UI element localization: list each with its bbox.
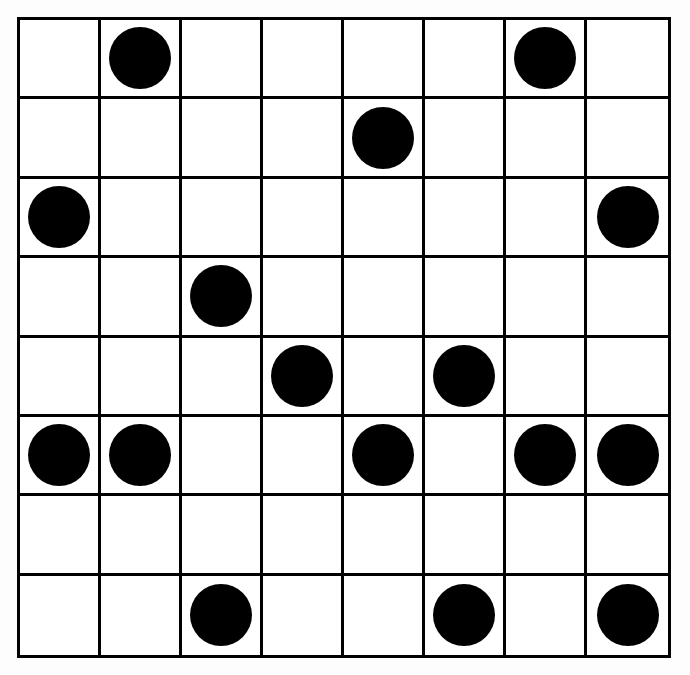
grid-cell[interactable] [506,258,587,337]
grid-cell[interactable] [101,338,182,417]
grid-cell[interactable] [587,20,668,99]
grid-cell[interactable] [20,179,101,258]
grid-cell[interactable] [425,496,506,575]
grid-cell[interactable] [344,20,425,99]
grid-cell[interactable] [506,496,587,575]
filled-circle-icon [433,345,495,407]
filled-circle-icon [352,107,414,169]
grid-cell[interactable] [587,179,668,258]
grid-cell[interactable] [506,99,587,178]
filled-circle-icon [433,584,495,646]
grid-cell[interactable] [344,338,425,417]
grid-cell[interactable] [506,20,587,99]
grid-cell[interactable] [101,258,182,337]
grid-cell[interactable] [587,576,668,655]
grid-cell[interactable] [425,179,506,258]
grid-cell[interactable] [506,179,587,258]
grid-cell[interactable] [20,417,101,496]
grid-cell[interactable] [182,258,263,337]
grid-cell[interactable] [101,576,182,655]
grid-cell[interactable] [101,417,182,496]
grid-cell[interactable] [263,417,344,496]
filled-circle-icon [514,424,576,486]
filled-circle-icon [28,424,90,486]
filled-circle-icon [190,584,252,646]
filled-circle-icon [352,424,414,486]
grid-cell[interactable] [182,496,263,575]
grid-cell[interactable] [263,179,344,258]
filled-circle-icon [597,186,659,248]
filled-circle-icon [28,186,90,248]
grid-cell[interactable] [587,338,668,417]
grid-cell[interactable] [263,338,344,417]
filled-circle-icon [190,265,252,327]
grid-cell[interactable] [20,496,101,575]
grid-cell[interactable] [506,576,587,655]
grid-cell[interactable] [587,417,668,496]
grid-cell[interactable] [101,20,182,99]
grid-cell[interactable] [182,576,263,655]
grid-cell[interactable] [506,417,587,496]
grid-cell[interactable] [344,496,425,575]
grid-cell[interactable] [344,179,425,258]
grid-cell[interactable] [101,496,182,575]
grid-cell[interactable] [506,338,587,417]
grid-cell[interactable] [344,258,425,337]
grid-cell[interactable] [101,99,182,178]
grid-cell[interactable] [587,496,668,575]
grid-cell[interactable] [20,99,101,178]
grid-cell[interactable] [263,496,344,575]
filled-circle-icon [271,345,333,407]
grid-cell[interactable] [182,338,263,417]
grid-cell[interactable] [425,99,506,178]
grid-cell[interactable] [182,179,263,258]
grid-cell[interactable] [182,417,263,496]
dot-grid [17,17,671,658]
grid-cell[interactable] [425,417,506,496]
grid-cell[interactable] [20,576,101,655]
grid-cell[interactable] [344,576,425,655]
grid-cell[interactable] [587,99,668,178]
grid-cell[interactable] [20,20,101,99]
grid-cell[interactable] [425,258,506,337]
grid-cell[interactable] [425,576,506,655]
filled-circle-icon [597,584,659,646]
filled-circle-icon [597,424,659,486]
figure-canvas [0,0,690,675]
grid-cell[interactable] [344,99,425,178]
filled-circle-icon [109,424,171,486]
grid-cell[interactable] [263,20,344,99]
filled-circle-icon [514,27,576,89]
grid-cell[interactable] [344,417,425,496]
grid-cell[interactable] [263,99,344,178]
grid-cell[interactable] [20,338,101,417]
grid-cell[interactable] [20,258,101,337]
filled-circle-icon [109,27,171,89]
grid-cell[interactable] [263,576,344,655]
grid-cell[interactable] [587,258,668,337]
grid-cell[interactable] [182,20,263,99]
grid-cell[interactable] [425,338,506,417]
grid-cell[interactable] [425,20,506,99]
grid-cell[interactable] [263,258,344,337]
grid-cell[interactable] [182,99,263,178]
grid-cell[interactable] [101,179,182,258]
